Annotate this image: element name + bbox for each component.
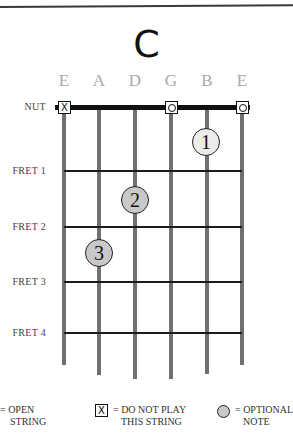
x-icon: X [61, 103, 68, 113]
fret-line-1 [64, 170, 242, 172]
x-icon: X [98, 406, 105, 416]
legend-open-line2: STRING [10, 416, 46, 428]
mute-marker-low-e: X [58, 101, 71, 114]
string-label-low-e: E [54, 71, 74, 91]
nut-bar [55, 105, 250, 110]
open-marker-high-e [236, 101, 249, 114]
top-rule [0, 4, 293, 8]
string-label-d: D [125, 71, 145, 91]
fret-line-2 [64, 226, 242, 228]
open-circle-icon [239, 104, 247, 112]
legend-optional-line2: NOTE [243, 416, 270, 428]
open-circle-icon [168, 104, 176, 112]
legend-optional-line1: = OPTIONAL [235, 404, 293, 416]
string-label-b: B [197, 71, 217, 91]
legend-mute-line2: THIS STRING [121, 416, 182, 428]
open-marker-g [165, 101, 178, 114]
fret-line-3 [64, 281, 242, 283]
string-g [169, 107, 173, 379]
fret-label-3: FRET 3 [12, 276, 46, 287]
finger-3: 3 [85, 239, 113, 267]
string-low-e [62, 107, 66, 365]
chord-title: C [0, 22, 293, 66]
string-label-high-e: E [232, 71, 252, 91]
fret-line-4 [64, 332, 242, 334]
finger-2: 2 [121, 186, 149, 214]
fret-label-nut: NUT [25, 101, 46, 112]
fret-label-1: FRET 1 [12, 165, 46, 176]
legend-mute-line1: = DO NOT PLAY [113, 404, 186, 416]
string-high-e [240, 107, 244, 365]
string-label-a: A [89, 71, 109, 91]
string-label-g: G [161, 71, 181, 91]
string-d [133, 107, 137, 379]
legend-mute-icon: X [95, 404, 108, 417]
legend-open-line1: = OPEN [0, 404, 34, 416]
fret-label-2: FRET 2 [12, 221, 46, 232]
fret-label-4: FRET 4 [12, 327, 46, 338]
finger-1: 1 [192, 128, 220, 156]
legend-optional-circle-icon [217, 405, 230, 418]
